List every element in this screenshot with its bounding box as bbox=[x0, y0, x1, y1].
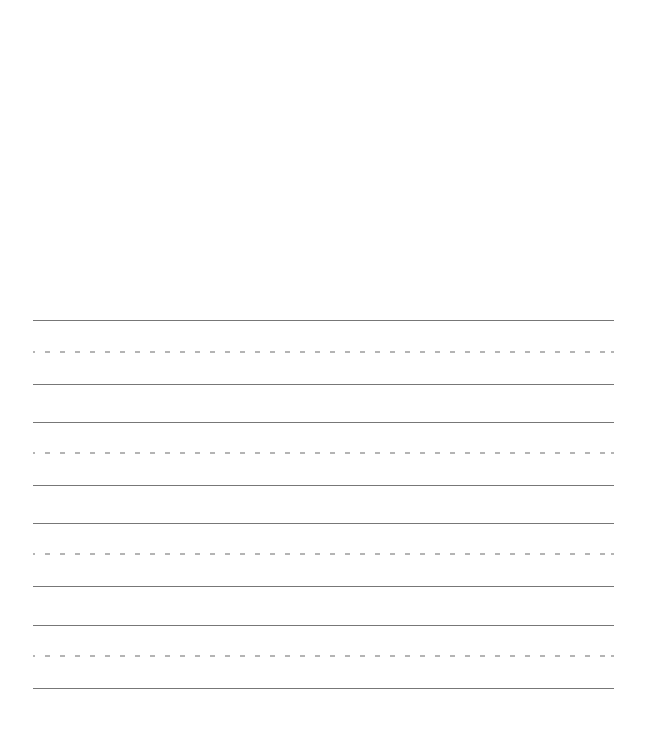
writing-line-group-4 bbox=[33, 625, 614, 689]
top-line bbox=[33, 625, 614, 626]
baseline bbox=[33, 485, 614, 486]
writing-line-group-3 bbox=[33, 523, 614, 587]
baseline bbox=[33, 384, 614, 385]
top-line bbox=[33, 523, 614, 524]
writing-line-group-1 bbox=[33, 320, 614, 385]
baseline bbox=[33, 688, 614, 689]
dashed-midline bbox=[33, 553, 614, 555]
dashed-midline bbox=[33, 655, 614, 657]
practice-sheet bbox=[0, 0, 651, 749]
top-line bbox=[33, 422, 614, 423]
baseline bbox=[33, 586, 614, 587]
dashed-midline bbox=[33, 452, 614, 454]
writing-line-group-2 bbox=[33, 422, 614, 486]
top-line bbox=[33, 320, 614, 321]
dashed-midline bbox=[33, 351, 614, 353]
